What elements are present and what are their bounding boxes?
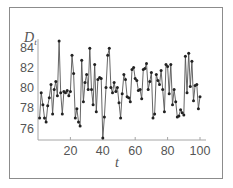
data-point	[127, 96, 130, 99]
data-point	[121, 92, 124, 95]
data-point	[147, 88, 150, 91]
data-point	[54, 80, 57, 83]
data-point	[129, 100, 132, 103]
data-point	[101, 137, 104, 140]
data-point	[184, 55, 187, 58]
data-point	[106, 54, 109, 57]
data-point	[152, 116, 155, 119]
data-point	[82, 100, 85, 103]
data-point	[150, 71, 153, 74]
x-tick-label: 60	[128, 144, 142, 158]
y-tick-label: 76	[20, 122, 34, 136]
data-point	[182, 113, 185, 116]
x-axis-title: t	[115, 155, 120, 170]
data-point	[61, 112, 64, 115]
data-point	[38, 116, 41, 119]
data-point	[186, 91, 189, 94]
data-point	[72, 72, 75, 75]
data-point	[50, 83, 53, 86]
data-point	[46, 104, 49, 107]
data-point	[189, 85, 192, 88]
data-point	[75, 107, 78, 110]
data-point	[93, 63, 96, 66]
data-point	[100, 77, 103, 80]
data-point	[158, 83, 161, 86]
data-point	[116, 86, 119, 89]
y-tick-label: 78	[20, 101, 34, 115]
data-point	[84, 81, 87, 84]
data-point	[171, 103, 174, 106]
data-point	[113, 81, 116, 84]
data-point	[41, 103, 44, 106]
data-point	[79, 125, 82, 128]
data-point	[135, 79, 138, 82]
data-point	[40, 91, 43, 94]
y-tick-label: 80	[20, 81, 34, 95]
x-tick-label: 40	[96, 144, 110, 158]
data-point	[80, 59, 83, 62]
data-point	[145, 62, 148, 65]
y-tick-label: 82	[20, 61, 34, 75]
x-tick-label: 20	[63, 144, 77, 158]
data-point	[140, 97, 143, 100]
data-point	[103, 115, 106, 118]
data-point	[58, 40, 61, 43]
data-point	[67, 94, 70, 97]
data-point	[59, 91, 62, 94]
data-point	[56, 94, 59, 97]
data-point	[197, 107, 200, 110]
data-point	[109, 86, 112, 89]
data-point	[111, 91, 114, 94]
data-point	[88, 47, 91, 50]
data-point	[74, 116, 77, 119]
data-point	[132, 66, 135, 69]
data-series	[38, 40, 201, 140]
data-point	[148, 80, 151, 83]
line-chart: 7678808284 20406080100 Dt t	[0, 0, 233, 188]
data-point	[163, 110, 166, 113]
data-point	[166, 65, 169, 68]
data-point	[168, 92, 171, 95]
series-line	[40, 41, 200, 138]
data-point	[119, 116, 122, 119]
y-axis: 7678808284	[20, 39, 38, 140]
data-point	[77, 120, 80, 123]
data-point	[177, 114, 180, 117]
data-point	[53, 88, 56, 91]
data-point	[124, 78, 127, 81]
data-point	[122, 73, 125, 76]
y-axis-title: Dt	[23, 30, 37, 47]
data-point	[153, 112, 156, 115]
data-point	[174, 100, 177, 103]
data-point	[155, 73, 158, 76]
data-point	[156, 79, 159, 82]
data-point	[108, 47, 111, 50]
data-point	[195, 83, 198, 86]
data-point	[118, 101, 121, 104]
data-point	[179, 108, 182, 111]
data-point	[51, 112, 54, 115]
data-point	[69, 90, 72, 93]
data-point	[139, 88, 142, 91]
data-point	[87, 88, 90, 91]
data-point	[143, 67, 146, 70]
x-tick-label: 100	[190, 144, 211, 158]
x-tick-label: 80	[161, 144, 175, 158]
data-point	[199, 95, 202, 98]
data-point	[45, 120, 48, 123]
data-point	[95, 110, 98, 113]
data-point	[173, 88, 176, 91]
data-point	[66, 89, 69, 92]
data-point	[187, 52, 190, 55]
data-point	[90, 88, 93, 91]
data-point	[169, 63, 172, 66]
data-point	[85, 73, 88, 76]
data-point	[160, 69, 163, 72]
x-axis: 20406080100	[38, 137, 210, 158]
data-point	[92, 103, 95, 106]
data-point	[43, 116, 46, 119]
data-point	[190, 60, 193, 63]
data-point	[161, 88, 164, 91]
data-point	[71, 54, 74, 57]
data-point	[48, 96, 51, 99]
